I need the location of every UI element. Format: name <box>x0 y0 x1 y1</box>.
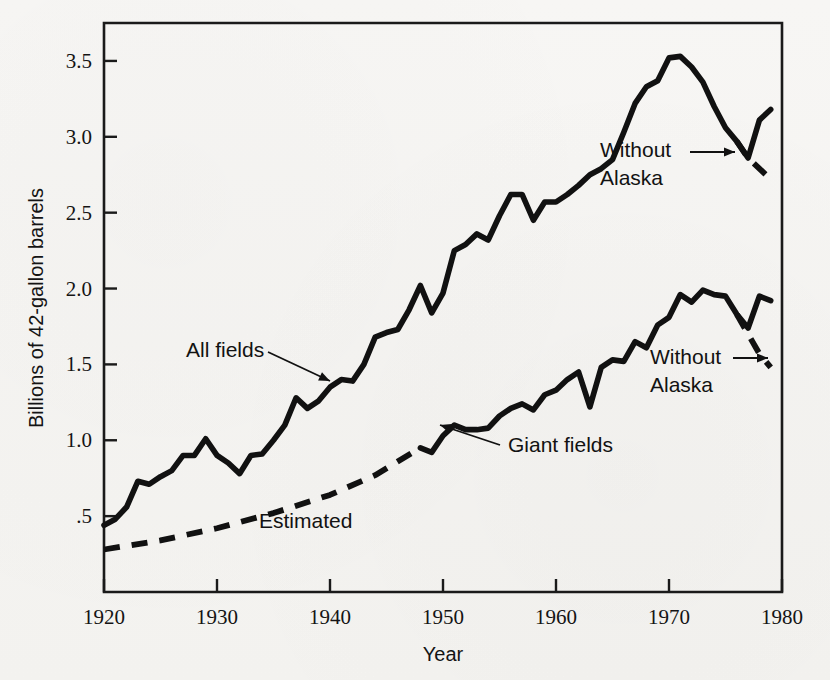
data-series-group <box>104 56 771 549</box>
x-axis: 1920193019401950196019701980 <box>83 579 803 629</box>
y-axis-title: Billions of 42-gallon barrels <box>25 188 47 428</box>
series-giant-fields <box>420 290 770 452</box>
annotation-estimated: Estimated <box>259 509 352 532</box>
x-tick-label: 1950 <box>422 605 464 629</box>
series-all-fields <box>104 56 771 525</box>
annotation-group: All fieldsWithoutAlaskaWithoutAlaskaGian… <box>186 138 768 532</box>
annotation-label: Giant fields <box>508 433 613 456</box>
y-axis: .51.01.52.02.53.03.5 <box>66 49 117 528</box>
y-tick-label: 1.5 <box>66 352 92 376</box>
series-giant-fields-without-alaska <box>737 314 771 367</box>
annotation-without-alaska-upper: WithoutAlaska <box>600 138 735 189</box>
oil-production-line-chart: .51.01.52.02.53.03.5 1920193019401950196… <box>0 0 830 680</box>
annotation-label: All fields <box>186 338 264 361</box>
plot-frame <box>104 23 782 592</box>
x-tick-label: 1920 <box>83 605 125 629</box>
y-tick-label: 2.0 <box>66 277 92 301</box>
y-tick-label: .5 <box>76 504 92 528</box>
annotation-without-alaska-lower: WithoutAlaska <box>650 345 768 396</box>
x-tick-label: 1980 <box>761 605 803 629</box>
annotation-all-fields: All fields <box>186 338 330 381</box>
axis-frame <box>104 23 782 592</box>
annotation-arrowhead <box>724 147 735 156</box>
series-giant-fields-estimated <box>104 448 420 550</box>
annotation-arrowhead <box>757 353 768 362</box>
y-tick-label: 3.0 <box>66 125 92 149</box>
x-axis-title: Year <box>423 643 464 665</box>
annotation-label: Estimated <box>259 509 352 532</box>
annotation-label: Without <box>600 138 671 161</box>
y-tick-label: 2.5 <box>66 201 92 225</box>
y-tick-label: 1.0 <box>66 428 92 452</box>
chart-figure: .51.01.52.02.53.03.5 1920193019401950196… <box>0 0 830 680</box>
annotation-label-line2: Alaska <box>650 373 713 396</box>
x-tick-label: 1970 <box>648 605 690 629</box>
x-tick-label: 1930 <box>196 605 238 629</box>
x-tick-label: 1960 <box>535 605 577 629</box>
annotation-label-line2: Alaska <box>600 166 663 189</box>
x-tick-label: 1940 <box>309 605 351 629</box>
y-tick-label: 3.5 <box>66 49 92 73</box>
annotation-label: Without <box>650 345 721 368</box>
